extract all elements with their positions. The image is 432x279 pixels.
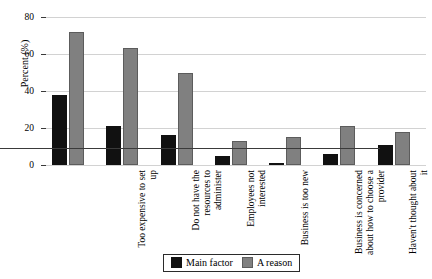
bar-group <box>46 17 100 165</box>
bar-a-reason <box>340 126 355 165</box>
x-axis-line <box>0 148 380 149</box>
chart-legend: Main factor A reason <box>163 254 300 272</box>
legend-item-a-reason: A reason <box>242 257 292 268</box>
gridline-0 <box>46 165 426 166</box>
bar-a-reason <box>232 141 247 165</box>
legend-item-main-factor: Main factor <box>171 257 233 268</box>
bar-main-factor <box>52 95 67 165</box>
bar-a-reason <box>286 137 301 165</box>
x-tick-label: Business is concerned about how to choos… <box>354 170 387 256</box>
x-tick-label: Too expensive to set up <box>137 170 159 256</box>
x-tick-label: Employees not interested <box>246 170 268 256</box>
bar-group <box>263 17 317 165</box>
y-tick-label-40: 40 <box>4 86 34 96</box>
bar-a-reason <box>178 73 193 166</box>
bar-group <box>155 17 209 165</box>
x-tick-label: Haven't thought about it <box>408 170 430 256</box>
y-tick-label-20: 20 <box>4 123 34 133</box>
bar-main-factor <box>269 163 284 165</box>
bar-main-factor <box>215 156 230 165</box>
y-tick-label-0: 0 <box>4 160 34 170</box>
a-reason-swatch <box>242 257 253 268</box>
bar-main-factor <box>161 135 176 165</box>
bar-a-reason <box>395 132 410 165</box>
y-tick-label-80: 80 <box>4 12 34 22</box>
y-axis-title: Percent (%) <box>19 14 30 114</box>
bar-group <box>372 17 426 165</box>
bar-a-reason <box>69 32 84 165</box>
bar-group <box>317 17 371 165</box>
legend-label-a-reason: A reason <box>257 257 292 268</box>
bar-main-factor <box>323 154 338 165</box>
main-factor-swatch <box>171 257 182 268</box>
x-tick-label: Do not have the resources to administer <box>191 170 224 256</box>
y-tick-mark-0 <box>41 165 46 166</box>
legend-label-main-factor: Main factor <box>186 257 233 268</box>
bar-main-factor <box>106 126 121 165</box>
plot-area: 020406080 <box>46 17 426 165</box>
y-tick-label-60: 60 <box>4 49 34 59</box>
chart-figure: Percent (%) 020406080 Too expensive to s… <box>0 0 432 279</box>
x-tick-label: Business is too new <box>300 170 311 256</box>
bar-group <box>209 17 263 165</box>
bar-group <box>100 17 154 165</box>
